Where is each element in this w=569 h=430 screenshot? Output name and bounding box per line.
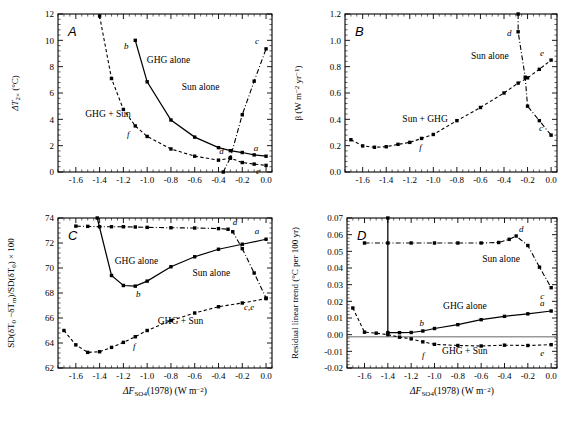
panel-c: -1.6-1.4-1.2-1.0-0.8-0.6-0.4-0.20.062646… <box>0 208 284 416</box>
data-point <box>252 79 255 82</box>
data-point <box>252 271 255 274</box>
x-tick-label: -1.0 <box>140 371 155 381</box>
y-tick-label: 4 <box>50 115 55 125</box>
series-ghg-sun <box>351 306 553 347</box>
y-axis-title: β (W m−2 yr−1) <box>293 65 303 120</box>
y-axis-title: Residual linear trend (°C per 100 yr) <box>290 227 300 359</box>
y-tick-label: 0.06 <box>327 230 343 240</box>
panel-letter: A <box>67 24 77 39</box>
data-point <box>432 133 435 136</box>
data-point <box>122 225 125 228</box>
data-point <box>145 279 148 282</box>
data-point <box>456 241 459 244</box>
data-point <box>229 156 232 159</box>
data-point <box>479 318 482 321</box>
svg-text:β (W m−2 yr−1): β (W m−2 yr−1) <box>293 65 303 120</box>
data-point <box>134 124 137 127</box>
data-point <box>398 335 401 338</box>
series-sun-alone <box>222 47 268 174</box>
point-label-c: c <box>539 123 543 133</box>
data-point <box>502 91 505 94</box>
y-tick-label: 0 <box>50 167 55 177</box>
x-tick-label: -0.2 <box>521 371 535 381</box>
panel-letter: D <box>357 228 366 243</box>
data-point <box>110 77 113 80</box>
data-point <box>145 135 148 138</box>
data-point <box>241 151 244 154</box>
x-tick-label: -1.6 <box>69 371 84 381</box>
data-point <box>134 225 137 228</box>
data-point <box>507 238 510 241</box>
y-tick-label: 2 <box>50 141 55 151</box>
data-point <box>526 244 529 247</box>
point-label-d: d <box>233 217 238 227</box>
y-tick-label: 70 <box>45 263 55 273</box>
x-axis-title: ΔFSO4(1978) (W m−2) <box>122 386 207 398</box>
series-label: GHG + Sun <box>158 316 204 326</box>
data-point <box>110 346 113 349</box>
point-label-f: f <box>422 350 426 360</box>
data-point <box>217 305 220 308</box>
x-tick-label: -1.0 <box>140 175 155 185</box>
panel-a: -1.6-1.4-1.2-1.0-0.8-0.6-0.4-0.20.002468… <box>0 0 284 208</box>
plot-frame <box>345 14 557 172</box>
x-tick-label: -1.4 <box>379 175 394 185</box>
series-label: Sun alone <box>182 82 220 92</box>
y-tick-label: 6 <box>50 88 55 98</box>
data-point <box>98 225 101 228</box>
x-tick-label: -1.0 <box>427 371 442 381</box>
x-tick-label: -1.2 <box>404 371 418 381</box>
series-label: Sun alone <box>471 51 509 61</box>
point-label-d: d <box>219 146 224 156</box>
data-point <box>86 225 89 228</box>
data-point <box>169 226 172 229</box>
data-point <box>456 323 459 326</box>
data-point <box>549 133 552 136</box>
x-tick-label: -0.6 <box>188 371 203 381</box>
series-sun-alone <box>363 234 553 289</box>
y-axis-title: SD(δT0 −δTm)/SD(δT0) × 100 <box>6 238 18 348</box>
svg-text:ΔFSO4(1978) (W m−2): ΔFSO4(1978) (W m−2) <box>409 386 494 398</box>
data-point <box>433 343 436 346</box>
data-point <box>526 312 529 315</box>
point-label-b: b <box>124 41 129 51</box>
data-point <box>538 265 541 268</box>
y-tick-label: 1.0 <box>330 36 342 46</box>
data-point <box>169 265 172 268</box>
data-point <box>455 119 458 122</box>
x-tick-label: -1.6 <box>357 371 372 381</box>
data-point <box>516 30 519 33</box>
x-tick-label: -0.6 <box>188 175 203 185</box>
data-point <box>145 329 148 332</box>
y-tick-label: 0.05 <box>327 247 343 257</box>
data-point <box>373 146 376 149</box>
y-tick-label: 66 <box>45 313 55 323</box>
data-point <box>264 47 267 50</box>
data-point <box>386 333 389 336</box>
data-point <box>526 344 529 347</box>
data-point <box>134 284 137 287</box>
data-point <box>122 341 125 344</box>
y-tick-label: 64 <box>45 338 55 348</box>
data-point <box>396 143 399 146</box>
data-point <box>226 228 229 231</box>
point-label-e: e <box>540 348 544 358</box>
point-label-f: f <box>127 129 131 139</box>
data-point <box>241 161 244 164</box>
data-point <box>169 118 172 121</box>
y-tick-label: 0.02 <box>327 297 343 307</box>
svg-text:ΔFSO4(1978) (W m−2): ΔFSO4(1978) (W m−2) <box>122 386 207 398</box>
x-tick-label: -0.4 <box>211 371 226 381</box>
data-point <box>433 241 436 244</box>
panel-letter: C <box>68 228 78 243</box>
y-tick-label: 0.00 <box>327 330 343 340</box>
x-tick-label: -1.6 <box>356 175 371 185</box>
svg-text:SD(δT0 −δTm)/SD(δT0) × 100: SD(δT0 −δTm)/SD(δT0) × 100 <box>6 238 18 348</box>
y-tick-label: 68 <box>45 288 55 298</box>
point-label-a: a <box>254 143 259 153</box>
data-point <box>479 106 482 109</box>
data-point <box>264 238 267 241</box>
data-point <box>409 331 412 334</box>
y-tick-label: 0.07 <box>327 213 343 223</box>
data-point <box>252 153 255 156</box>
